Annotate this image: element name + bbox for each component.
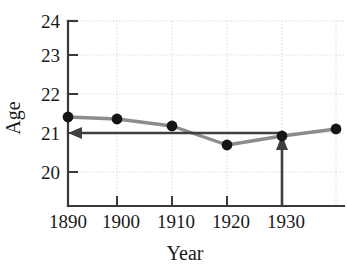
y-tick-label-24: 24 — [41, 11, 61, 32]
data-point-1910 — [167, 121, 178, 132]
line-chart: 24 23 22 21 20 1890 1900 1910 1920 1930 … — [0, 0, 347, 268]
chart-container: 24 23 22 21 20 1890 1900 1910 1920 1930 … — [0, 0, 347, 268]
x-tick-label-1930: 1930 — [267, 211, 305, 232]
vertical-gridlines — [68, 21, 336, 206]
y-tick-label-23: 23 — [41, 45, 60, 66]
data-point-1900 — [112, 114, 123, 125]
x-tick-marks — [68, 196, 282, 206]
y-tick-label-20: 20 — [41, 162, 60, 183]
axes-lines — [68, 21, 344, 206]
data-point-1940 — [331, 124, 342, 135]
data-point-1890 — [63, 112, 74, 123]
x-tick-labels: 1890 1900 1910 1920 1930 — [49, 211, 305, 232]
data-point-1930 — [277, 131, 288, 142]
x-tick-label-1920: 1920 — [212, 211, 250, 232]
series-line-age — [68, 117, 336, 145]
horizontal-arrow-head — [68, 127, 82, 139]
y-tick-label-21: 21 — [41, 123, 60, 144]
vertical-arrow-1930 — [276, 135, 288, 206]
x-tick-label-1910: 1910 — [157, 211, 195, 232]
y-tick-marks — [68, 21, 78, 172]
x-tick-label-1890: 1890 — [49, 211, 87, 232]
y-tick-labels: 24 23 22 21 20 — [41, 11, 61, 183]
y-axis-title: Age — [2, 101, 25, 134]
x-axis-title: Year — [167, 242, 204, 264]
x-tick-label-1900: 1900 — [102, 211, 140, 232]
y-tick-label-22: 22 — [41, 84, 60, 105]
horizontal-gridlines — [68, 21, 344, 172]
data-point-1920 — [222, 140, 233, 151]
